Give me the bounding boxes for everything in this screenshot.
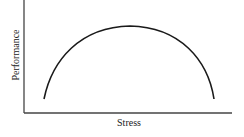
- x-axis-label: Stress: [117, 117, 141, 128]
- y-axis-label: Performance: [10, 29, 21, 81]
- stress-performance-chart: Stress Performance: [0, 0, 244, 137]
- inverted-u-curve: [44, 26, 214, 99]
